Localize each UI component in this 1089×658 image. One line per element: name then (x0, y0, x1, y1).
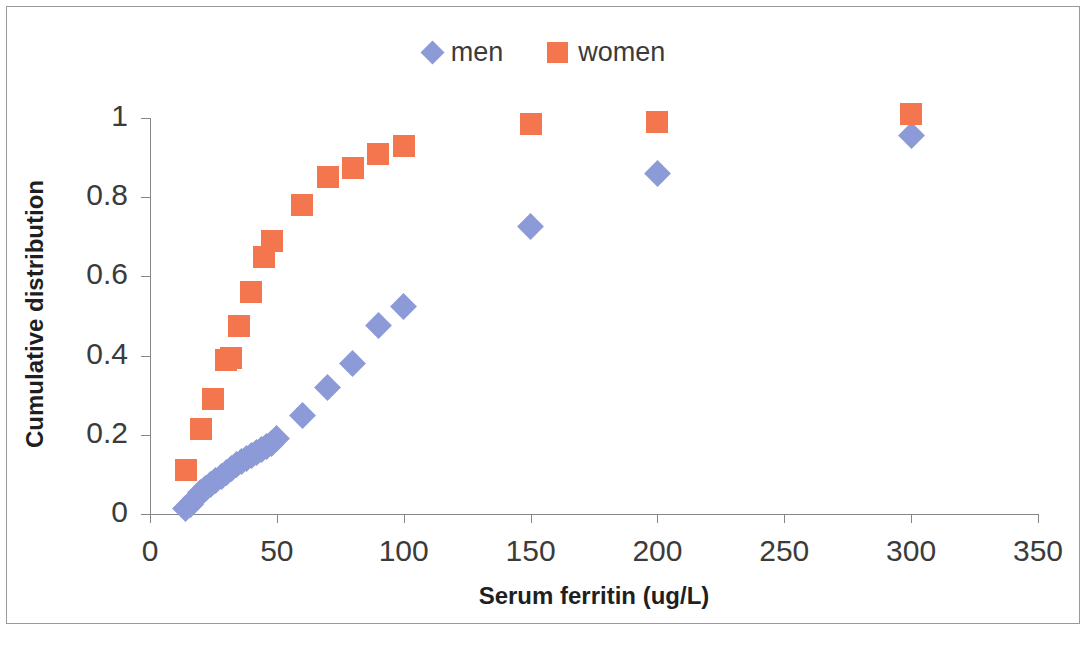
data-point-women (190, 418, 212, 440)
data-point-men (517, 213, 544, 240)
diamond-swatch-icon (420, 40, 444, 64)
data-point-men (289, 402, 316, 429)
x-axis-tick (404, 514, 405, 523)
y-axis-tick (141, 435, 150, 436)
data-point-women (646, 111, 668, 133)
plot-area (150, 118, 1038, 514)
x-axis-tick-label: 200 (617, 534, 697, 568)
x-axis-tick-label: 0 (110, 534, 190, 568)
data-point-men (365, 312, 392, 339)
legend-entry-men: men (424, 39, 504, 66)
data-point-women (220, 347, 242, 369)
data-point-women (367, 143, 389, 165)
data-point-women (202, 388, 224, 410)
legend-entry-women: women (547, 39, 665, 66)
data-point-women (317, 166, 339, 188)
y-axis-tick (141, 514, 150, 515)
x-axis-tick-label: 350 (998, 534, 1078, 568)
x-axis-tick (150, 514, 151, 523)
x-axis-tick-label: 150 (491, 534, 571, 568)
x-axis-line (150, 514, 1038, 515)
chart-figure: men women 05010015020025030035000.20.40.… (0, 0, 1089, 658)
x-axis-tick (277, 514, 278, 523)
x-axis-tick-label: 50 (237, 534, 317, 568)
x-axis-tick-label: 100 (364, 534, 444, 568)
data-point-women (228, 315, 250, 337)
data-point-men (898, 122, 925, 149)
data-point-women (240, 281, 262, 303)
y-axis-tick-label: 0.6 (0, 259, 128, 289)
data-point-men (340, 350, 367, 377)
x-axis-tick-label: 300 (871, 534, 951, 568)
data-point-women (175, 459, 197, 481)
chart-legend: men women (0, 32, 1089, 72)
x-axis-tick (531, 514, 532, 523)
x-axis-tick-label: 250 (744, 534, 824, 568)
square-swatch-icon (547, 42, 568, 63)
data-point-women (291, 194, 313, 216)
data-point-men (314, 374, 341, 401)
data-point-women (520, 113, 542, 135)
y-axis-tick-label: 0 (0, 497, 128, 527)
x-axis-tick (784, 514, 785, 523)
y-axis-title: Cumulative distribution (21, 104, 49, 524)
data-point-men (390, 293, 417, 320)
x-axis-tick (1038, 514, 1039, 523)
y-axis-tick-label: 0.2 (0, 418, 128, 448)
data-point-women (393, 135, 415, 157)
y-axis-tick (141, 276, 150, 277)
y-axis-tick (141, 118, 150, 119)
y-axis-tick (141, 197, 150, 198)
x-axis-tick (911, 514, 912, 523)
data-point-men (644, 160, 671, 187)
y-axis-tick-label: 0.8 (0, 180, 128, 210)
y-axis-tick-label: 1 (0, 101, 128, 131)
legend-label-men: men (451, 39, 504, 66)
legend-label-women: women (578, 39, 665, 66)
x-axis-tick (657, 514, 658, 523)
y-axis-tick (141, 356, 150, 357)
y-axis-tick-label: 0.4 (0, 339, 128, 369)
data-point-women (342, 157, 364, 179)
data-point-women (900, 103, 922, 125)
x-axis-title: Serum ferritin (ug/L) (150, 582, 1038, 610)
data-point-women (261, 230, 283, 252)
